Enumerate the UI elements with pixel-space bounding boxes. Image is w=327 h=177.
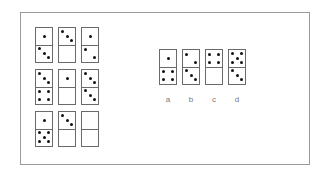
pip <box>84 89 87 92</box>
option-domino-a[interactable] <box>159 49 177 85</box>
pip <box>66 35 69 38</box>
domino-bottom-half <box>59 87 75 104</box>
pip <box>38 131 41 134</box>
pip <box>66 77 69 80</box>
pip <box>70 39 73 42</box>
domino-top-half <box>160 50 176 68</box>
pip <box>43 52 46 55</box>
grid-domino <box>35 111 53 147</box>
grid-domino <box>81 27 99 63</box>
pip <box>47 81 50 84</box>
pip <box>162 70 165 73</box>
pip <box>43 35 46 38</box>
domino-bottom-half <box>160 67 176 84</box>
pip <box>61 114 64 117</box>
pip <box>89 35 92 38</box>
domino-bottom-half <box>36 45 52 62</box>
grid-domino <box>81 69 99 105</box>
pip <box>231 69 234 72</box>
domino-bottom-half <box>59 45 75 62</box>
pip <box>43 77 46 80</box>
pip <box>38 47 41 50</box>
option-label-b: b <box>182 95 200 104</box>
pip <box>217 53 220 56</box>
grid-domino <box>58 27 76 63</box>
option-domino-b[interactable] <box>182 49 200 85</box>
pip <box>38 140 41 143</box>
grid-domino <box>58 111 76 147</box>
pip <box>93 81 96 84</box>
domino-top-half <box>82 28 98 46</box>
domino-top-half <box>82 112 98 130</box>
pip <box>38 90 41 93</box>
grid-domino <box>35 69 53 105</box>
pip <box>171 78 174 81</box>
pip <box>240 61 243 64</box>
domino-bottom-half <box>36 129 52 146</box>
domino-top-half <box>36 28 52 46</box>
domino-top-half <box>36 112 52 130</box>
pip <box>93 56 96 59</box>
pip <box>38 98 41 101</box>
domino-top-half <box>36 70 52 88</box>
pip <box>93 98 96 101</box>
pip <box>208 53 211 56</box>
pip <box>70 123 73 126</box>
pip <box>43 136 46 139</box>
pip <box>217 61 220 64</box>
domino-top-half <box>183 50 199 68</box>
domino-bottom-half <box>82 87 98 104</box>
option-label-a: a <box>159 95 177 104</box>
pip <box>171 70 174 73</box>
pip <box>167 57 170 60</box>
pip <box>84 72 87 75</box>
pip <box>190 74 193 77</box>
pip <box>43 119 46 122</box>
domino-bottom-half <box>82 45 98 62</box>
grid-domino <box>58 69 76 105</box>
pip <box>194 78 197 81</box>
pip <box>162 78 165 81</box>
pip <box>185 53 188 56</box>
domino-top-half <box>59 70 75 88</box>
pip <box>208 61 211 64</box>
domino-top-half <box>229 50 245 68</box>
domino-top-half <box>59 28 75 46</box>
pip <box>231 61 234 64</box>
pip <box>66 119 69 122</box>
pip <box>47 98 50 101</box>
domino-top-half <box>206 50 222 68</box>
pip <box>240 52 243 55</box>
pip <box>89 77 92 80</box>
domino-bottom-half <box>82 129 98 146</box>
pip <box>47 90 50 93</box>
pip <box>240 78 243 81</box>
pip <box>185 69 188 72</box>
domino-bottom-half <box>36 87 52 104</box>
pip <box>236 57 239 60</box>
pip <box>236 74 239 77</box>
pip <box>61 30 64 33</box>
pip <box>84 48 87 51</box>
domino-bottom-half <box>206 67 222 84</box>
domino-top-half <box>59 112 75 130</box>
pip <box>47 131 50 134</box>
pip <box>194 61 197 64</box>
domino-bottom-half <box>59 129 75 146</box>
domino-top-half <box>82 70 98 88</box>
option-domino-d[interactable] <box>228 49 246 85</box>
option-label-d: d <box>228 95 246 104</box>
pip <box>38 72 41 75</box>
pip <box>231 52 234 55</box>
missing-domino <box>81 111 99 147</box>
pip <box>89 94 92 97</box>
domino-bottom-half <box>183 67 199 84</box>
grid-domino <box>35 27 53 63</box>
option-label-c: c <box>205 95 223 104</box>
pip <box>47 56 50 59</box>
option-domino-c[interactable] <box>205 49 223 85</box>
pip <box>47 140 50 143</box>
domino-bottom-half <box>229 67 245 84</box>
